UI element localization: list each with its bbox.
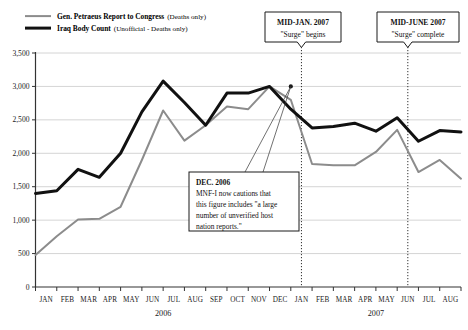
x-axis-tick-label: JUL	[423, 296, 436, 304]
legend-entry-label: Iraq Body Count(Unofficial - Deaths only…	[57, 24, 188, 33]
note-body-line: this figure includes "a large	[196, 200, 278, 209]
y-axis-tick-label: 0	[26, 283, 30, 292]
x-axis-year-label: 2007	[368, 309, 384, 318]
x-axis-tick-label: SEP	[210, 296, 223, 304]
callout-title: MID-JAN. 2007	[277, 18, 329, 27]
y-axis-tick-label: 3,000	[12, 82, 29, 91]
x-axis-tick-label: JUN	[146, 296, 160, 304]
x-axis-tick-label: JAN	[295, 296, 309, 304]
x-axis-tick-label: APR	[103, 296, 117, 304]
legend-entry-label: Gen. Petraeus Report to Congress(Deaths …	[57, 12, 207, 21]
y-axis-tick-label: 1,000	[12, 216, 29, 225]
x-axis-tick-label: MAR	[80, 296, 97, 304]
y-axis-tick-label: 2,500	[12, 115, 29, 124]
x-axis-tick-label: APR	[358, 296, 372, 304]
x-axis-tick-label: JUN	[401, 296, 415, 304]
x-axis-tick-label: MAY	[378, 296, 395, 304]
callout-subtitle: "Surge" complete	[392, 30, 446, 39]
note-title: DEC. 2006	[196, 178, 230, 187]
note-body-line: MNF-I now cautions that	[196, 189, 272, 198]
y-axis-tick-label: 2,000	[12, 149, 29, 158]
chart-figure: 05001,0001,5002,0002,5003,0003,500 JANFE…	[0, 0, 468, 330]
y-axis-tick-label: 1,500	[12, 182, 29, 191]
x-axis-tick-label: JUL	[167, 296, 180, 304]
line-chart-svg: 05001,0001,5002,0002,5003,0003,500 JANFE…	[0, 0, 468, 330]
note-body-line: number of unverified host	[196, 211, 274, 220]
x-axis-tick-label: OCT	[230, 296, 245, 304]
y-axis-tick-label: 3,500	[12, 49, 29, 58]
note-body-line: nation reports."	[196, 222, 242, 231]
x-axis-tick-label: FEB	[61, 296, 75, 304]
callout-title: MID-JUNE 2007	[390, 18, 445, 27]
x-axis-year-label: 2006	[155, 309, 171, 318]
x-axis-tick-label: NOV	[251, 296, 268, 304]
chart-background	[0, 0, 468, 330]
y-axis-tick-label: 500	[18, 249, 30, 258]
x-axis-tick-label: DEC	[273, 296, 288, 304]
x-axis-tick-label: MAY	[123, 296, 140, 304]
x-axis-tick-label: MAR	[336, 296, 353, 304]
x-axis-tick-label: FEB	[316, 296, 330, 304]
callout-subtitle: "Surge" begins	[281, 30, 326, 39]
x-axis-tick-label: AUG	[442, 296, 458, 304]
x-axis-tick-label: JAN	[39, 296, 53, 304]
x-axis-tick-label: AUG	[187, 296, 203, 304]
